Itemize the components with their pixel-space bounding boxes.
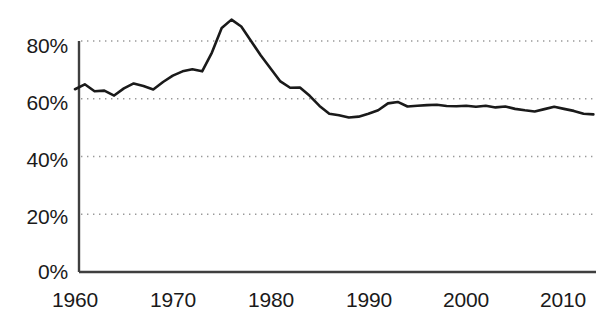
line-chart: 80% 60% 40% 20% 0% 1960 1970 1980 1990 2… <box>0 0 609 331</box>
y-tick-label-80: 80% <box>8 34 68 58</box>
chart-plot-area <box>0 0 609 331</box>
y-tick-label-0: 0% <box>8 260 68 284</box>
gridlines <box>81 41 596 214</box>
x-tick-label-1980: 1980 <box>248 288 294 312</box>
x-tick-label-1970: 1970 <box>150 288 196 312</box>
data-series-line <box>75 20 593 118</box>
x-tick-label-1990: 1990 <box>346 288 392 312</box>
x-tick-label-1960: 1960 <box>52 288 98 312</box>
y-tick-label-60: 60% <box>8 91 68 115</box>
x-tick-label-2000: 2000 <box>443 288 489 312</box>
y-tick-label-40: 40% <box>8 148 68 172</box>
x-tick-label-2010: 2010 <box>540 288 586 312</box>
y-tick-label-20: 20% <box>8 205 68 229</box>
